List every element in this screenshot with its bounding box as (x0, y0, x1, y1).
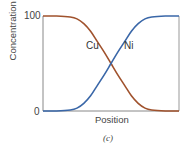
y-tick-0: 0 (34, 106, 40, 117)
y-tick-100: 100 (24, 10, 41, 21)
cu-label: Cu (86, 40, 99, 51)
plot-area (0, 0, 191, 150)
ni-label: Ni (124, 40, 133, 51)
diffusion-concentration-chart: Concentration of Ni, Cu 100 0 Cu Ni Posi… (0, 0, 191, 150)
x-axis-label: Position (95, 114, 129, 125)
ni-curve (43, 16, 179, 111)
y-axis-label: Concentration of Ni, Cu (7, 0, 19, 61)
figure-caption: (c) (103, 133, 113, 143)
